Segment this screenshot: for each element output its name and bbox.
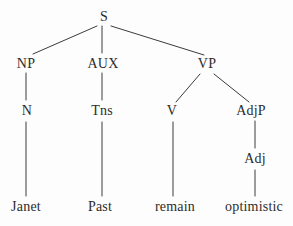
node-tns: Tns bbox=[91, 104, 113, 118]
node-vp: VP bbox=[198, 57, 216, 71]
node-v: V bbox=[167, 104, 177, 118]
edge-vp-v bbox=[176, 74, 200, 102]
leaf-remain: remain bbox=[155, 200, 195, 214]
node-np: NP bbox=[17, 57, 35, 71]
leaf-janet: Janet bbox=[11, 200, 41, 214]
edge-s-vp bbox=[111, 26, 204, 55]
leaf-optimistic: optimistic bbox=[225, 200, 283, 214]
node-aux: AUX bbox=[88, 57, 119, 71]
node-n: N bbox=[22, 104, 32, 118]
node-adjp: AdjP bbox=[236, 104, 266, 118]
node-adj: Adj bbox=[244, 152, 266, 166]
leaf-past: Past bbox=[88, 200, 112, 214]
node-s: S bbox=[100, 10, 108, 24]
syntax-tree-diagram: S NP AUX VP N Tns V AdjP Adj Janet Past … bbox=[0, 0, 293, 226]
edge-s-np bbox=[33, 26, 97, 54]
edge-vp-adjp bbox=[214, 74, 249, 102]
